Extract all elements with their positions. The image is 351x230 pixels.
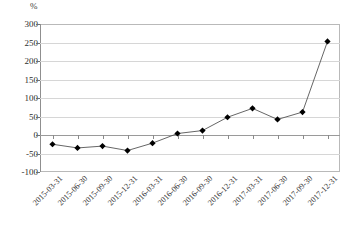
data-point-marker: [299, 109, 305, 115]
data-point-marker: [174, 130, 180, 136]
data-point-marker: [224, 114, 230, 120]
data-point-marker: [149, 140, 155, 146]
data-series-line: [0, 0, 351, 230]
data-point-marker: [324, 38, 330, 44]
data-point-marker: [49, 141, 55, 147]
data-point-marker: [199, 127, 205, 133]
data-point-marker: [74, 145, 80, 151]
data-point-marker: [274, 116, 280, 122]
chart-container: % 300250200150100500-50-100 2015-03-3120…: [0, 0, 351, 230]
data-point-marker: [249, 105, 255, 111]
data-point-marker: [99, 143, 105, 149]
data-point-marker: [124, 147, 130, 153]
